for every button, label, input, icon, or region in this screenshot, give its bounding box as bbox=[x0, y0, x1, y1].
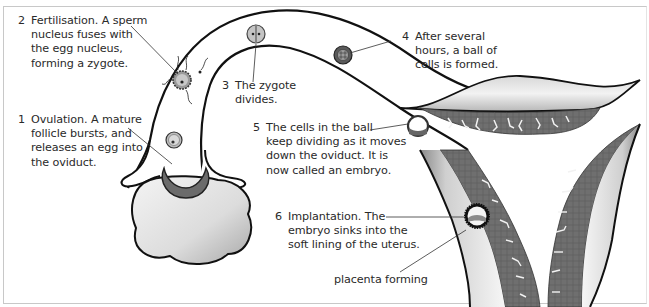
ovary bbox=[132, 168, 251, 264]
label-line: forming a zygote. bbox=[18, 57, 147, 71]
step-number: 5 bbox=[253, 121, 260, 135]
label-line: releases an egg into bbox=[18, 141, 143, 155]
label-line: Ovulation. A mature bbox=[18, 113, 143, 127]
step-5-label: 5 The cells in the ball keep dividing as… bbox=[253, 121, 406, 178]
dividing-zygote bbox=[247, 25, 265, 43]
label-line: follicle bursts, and bbox=[18, 127, 143, 141]
embryo-in-oviduct bbox=[408, 116, 428, 136]
label-line: The zygote bbox=[222, 79, 296, 93]
leader-step-3 bbox=[253, 44, 256, 82]
label-line: now called an embryo. bbox=[253, 164, 406, 178]
step-number: 3 bbox=[222, 79, 229, 93]
placenta-label: placenta forming bbox=[334, 273, 428, 287]
label-line: divides. bbox=[222, 93, 296, 107]
step-number: 1 bbox=[18, 113, 25, 127]
step-1-label: 1 Ovulation. A mature follicle bursts, a… bbox=[18, 113, 143, 170]
leader-step-4 bbox=[350, 41, 391, 53]
label-line: The cells in the ball bbox=[253, 121, 406, 135]
label-line: the oviduct. bbox=[18, 156, 143, 170]
label-line: Implantation. The bbox=[275, 210, 420, 224]
step-2-label: 2 Fertilisation. A sperm nucleus fuses w… bbox=[18, 14, 147, 71]
label-line: After several bbox=[402, 30, 498, 44]
step-number: 2 bbox=[18, 14, 25, 28]
label-line: nucleus fuses with bbox=[18, 28, 147, 42]
label-line: cells is formed. bbox=[402, 58, 498, 72]
step-number: 6 bbox=[275, 210, 282, 224]
step-3-label: 3 The zygote divides. bbox=[222, 79, 296, 107]
label-line: down the oviduct. It is bbox=[253, 149, 406, 163]
ball-of-cells bbox=[334, 46, 352, 64]
label-line: Fertilisation. A sperm bbox=[18, 14, 147, 28]
step-4-label: 4 After several hours, a ball of cells i… bbox=[402, 30, 498, 73]
step-6-label: 6 Implantation. The embryo sinks into th… bbox=[275, 210, 420, 253]
label-line: soft lining of the uterus. bbox=[275, 238, 420, 252]
label-line: embryo sinks into the bbox=[275, 224, 420, 238]
implanted-embryo bbox=[465, 204, 489, 228]
step-number: 4 bbox=[402, 30, 409, 44]
zygote-fertilisation bbox=[162, 56, 208, 104]
label-line: the egg nucleus, bbox=[18, 42, 147, 56]
label-line: hours, a ball of bbox=[402, 44, 498, 58]
egg bbox=[166, 132, 182, 148]
label-line: keep dividing as it moves bbox=[253, 135, 406, 149]
uterus bbox=[400, 76, 640, 307]
label-line: placenta forming bbox=[334, 273, 428, 287]
